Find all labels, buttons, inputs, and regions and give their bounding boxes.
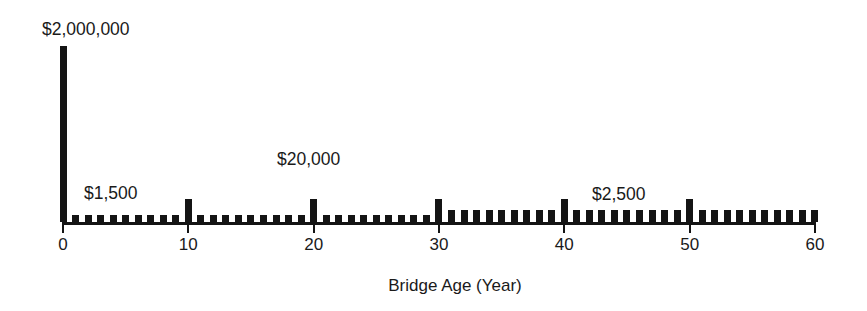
- bar: [72, 215, 79, 222]
- bar: [172, 215, 179, 222]
- bar: [222, 215, 229, 222]
- bar: [423, 215, 430, 222]
- bar: [511, 210, 518, 222]
- bar: [774, 210, 781, 222]
- bar: [97, 215, 104, 222]
- value-annotation: $1,500: [84, 185, 138, 203]
- bar: [561, 199, 568, 222]
- bar: [135, 215, 142, 222]
- x-axis-tick-label: 60: [806, 236, 825, 253]
- bar: [586, 210, 593, 222]
- bar: [486, 210, 493, 222]
- bar: [373, 215, 380, 222]
- bar: [736, 210, 743, 222]
- bar: [247, 215, 254, 222]
- bar: [147, 215, 154, 222]
- bar: [210, 215, 217, 222]
- bar: [60, 46, 67, 222]
- x-axis-tick: [313, 222, 315, 233]
- x-axis-tick: [814, 222, 816, 233]
- bar: [273, 215, 280, 222]
- x-axis-tick-label: 20: [304, 236, 323, 253]
- x-axis-tick-label: 50: [680, 236, 699, 253]
- bar: [674, 210, 681, 222]
- x-axis-tick-label: 0: [58, 236, 67, 253]
- plot-area: 0102030405060 $2,000,000$1,500$20,000$2,…: [0, 0, 867, 311]
- bar-chart: 0102030405060 $2,000,000$1,500$20,000$2,…: [0, 0, 867, 311]
- bar: [461, 210, 468, 222]
- bar: [761, 210, 768, 222]
- value-annotation: $2,000,000: [42, 21, 130, 39]
- bar: [536, 210, 543, 222]
- bar: [548, 210, 555, 222]
- x-axis-tick: [438, 222, 440, 233]
- bar: [160, 215, 167, 222]
- bar: [623, 210, 630, 222]
- x-axis-tick-label: 30: [430, 236, 449, 253]
- bar: [185, 199, 192, 222]
- bar: [686, 199, 693, 222]
- bar: [749, 210, 756, 222]
- x-axis-tick-label: 40: [555, 236, 574, 253]
- x-axis-tick-label: 10: [179, 236, 198, 253]
- bar: [598, 210, 605, 222]
- bar: [335, 215, 342, 222]
- bar: [661, 210, 668, 222]
- bar: [636, 210, 643, 222]
- bar: [523, 210, 530, 222]
- bar: [410, 215, 417, 222]
- bar: [611, 210, 618, 222]
- bar: [360, 215, 367, 222]
- bar: [310, 199, 317, 222]
- bar: [260, 215, 267, 222]
- x-axis-tick: [62, 222, 64, 233]
- bar: [448, 210, 455, 222]
- bar: [786, 210, 793, 222]
- x-axis-title: Bridge Age (Year): [388, 276, 522, 296]
- bar: [573, 210, 580, 222]
- x-axis-tick: [563, 222, 565, 233]
- bar: [473, 210, 480, 222]
- value-annotation: $2,500: [592, 186, 646, 204]
- bar: [197, 215, 204, 222]
- bar: [435, 199, 442, 222]
- bar: [235, 215, 242, 222]
- bar: [699, 210, 706, 222]
- bar: [348, 215, 355, 222]
- bar: [285, 215, 292, 222]
- x-axis-tick: [187, 222, 189, 233]
- bar: [298, 215, 305, 222]
- bar: [799, 210, 806, 222]
- bar: [85, 215, 92, 222]
- bar: [724, 210, 731, 222]
- bar: [811, 210, 818, 222]
- value-annotation: $20,000: [277, 151, 340, 169]
- bar: [110, 215, 117, 222]
- bar: [323, 215, 330, 222]
- x-axis-tick: [689, 222, 691, 233]
- bar: [398, 215, 405, 222]
- bar: [122, 215, 129, 222]
- bar: [498, 210, 505, 222]
- bar: [385, 215, 392, 222]
- bar: [711, 210, 718, 222]
- bar: [649, 210, 656, 222]
